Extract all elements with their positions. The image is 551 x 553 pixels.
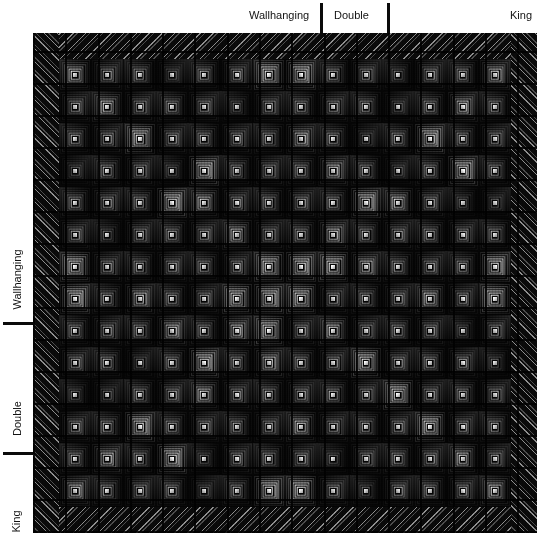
quilt-block[interactable] xyxy=(253,219,285,251)
quilt-block[interactable] xyxy=(446,283,478,315)
quilt-block[interactable] xyxy=(285,155,317,187)
quilt-block[interactable] xyxy=(253,347,285,379)
quilt-block[interactable] xyxy=(382,475,414,507)
quilt-block[interactable] xyxy=(124,251,156,283)
quilt-block[interactable] xyxy=(124,283,156,315)
quilt-block[interactable] xyxy=(446,251,478,283)
quilt-block[interactable] xyxy=(350,219,382,251)
quilt-block[interactable] xyxy=(253,123,285,155)
quilt-block[interactable] xyxy=(414,283,446,315)
quilt-block[interactable] xyxy=(188,155,220,187)
quilt-block[interactable] xyxy=(156,219,188,251)
quilt-block[interactable] xyxy=(253,443,285,475)
quilt-block[interactable] xyxy=(350,251,382,283)
quilt-block[interactable] xyxy=(446,155,478,187)
quilt-block[interactable] xyxy=(382,315,414,347)
quilt-block[interactable] xyxy=(156,443,188,475)
quilt-block[interactable] xyxy=(156,347,188,379)
quilt-block[interactable] xyxy=(91,475,123,507)
quilt-block[interactable] xyxy=(382,187,414,219)
quilt-block[interactable] xyxy=(317,219,349,251)
quilt-block[interactable] xyxy=(156,411,188,443)
quilt-block[interactable] xyxy=(253,59,285,91)
quilt-block[interactable] xyxy=(156,475,188,507)
quilt-block[interactable] xyxy=(382,123,414,155)
quilt-block[interactable] xyxy=(59,315,91,347)
quilt-block[interactable] xyxy=(317,283,349,315)
quilt-block[interactable] xyxy=(220,443,252,475)
quilt-block[interactable] xyxy=(91,251,123,283)
quilt-block[interactable] xyxy=(253,283,285,315)
quilt-block[interactable] xyxy=(350,443,382,475)
quilt-block[interactable] xyxy=(124,155,156,187)
quilt-block[interactable] xyxy=(317,411,349,443)
quilt-block[interactable] xyxy=(156,59,188,91)
quilt-block[interactable] xyxy=(188,443,220,475)
quilt-block[interactable] xyxy=(124,187,156,219)
quilt-block[interactable] xyxy=(156,123,188,155)
quilt-block[interactable] xyxy=(479,155,511,187)
quilt-block[interactable] xyxy=(220,155,252,187)
quilt-block[interactable] xyxy=(382,251,414,283)
quilt-block[interactable] xyxy=(317,315,349,347)
quilt-block[interactable] xyxy=(382,347,414,379)
quilt-block[interactable] xyxy=(91,123,123,155)
quilt-block[interactable] xyxy=(414,219,446,251)
quilt-block[interactable] xyxy=(382,59,414,91)
quilt-block[interactable] xyxy=(59,187,91,219)
quilt-block[interactable] xyxy=(220,379,252,411)
quilt-block[interactable] xyxy=(91,347,123,379)
quilt-block[interactable] xyxy=(156,91,188,123)
quilt-block[interactable] xyxy=(414,347,446,379)
quilt-canvas[interactable] xyxy=(33,33,537,533)
quilt-block[interactable] xyxy=(350,59,382,91)
quilt-block[interactable] xyxy=(414,59,446,91)
quilt-block[interactable] xyxy=(382,155,414,187)
quilt-block[interactable] xyxy=(285,219,317,251)
quilt-block[interactable] xyxy=(220,91,252,123)
quilt-block[interactable] xyxy=(59,443,91,475)
quilt-block[interactable] xyxy=(382,379,414,411)
quilt-block[interactable] xyxy=(59,475,91,507)
quilt-block[interactable] xyxy=(446,315,478,347)
quilt-block[interactable] xyxy=(220,59,252,91)
quilt-block[interactable] xyxy=(479,475,511,507)
quilt-block[interactable] xyxy=(124,475,156,507)
quilt-block[interactable] xyxy=(317,59,349,91)
quilt-block[interactable] xyxy=(414,123,446,155)
quilt-block[interactable] xyxy=(446,91,478,123)
quilt-block[interactable] xyxy=(479,443,511,475)
quilt-block[interactable] xyxy=(156,251,188,283)
quilt-block[interactable] xyxy=(156,283,188,315)
quilt-block[interactable] xyxy=(59,251,91,283)
quilt-block[interactable] xyxy=(91,283,123,315)
quilt-block[interactable] xyxy=(479,187,511,219)
quilt-block[interactable] xyxy=(91,411,123,443)
quilt-block[interactable] xyxy=(446,379,478,411)
quilt-block[interactable] xyxy=(317,91,349,123)
quilt-block[interactable] xyxy=(220,347,252,379)
quilt-block[interactable] xyxy=(188,347,220,379)
quilt-block[interactable] xyxy=(446,59,478,91)
quilt-block[interactable] xyxy=(220,251,252,283)
quilt-block[interactable] xyxy=(188,59,220,91)
quilt-block[interactable] xyxy=(253,379,285,411)
quilt-block[interactable] xyxy=(253,475,285,507)
quilt-block[interactable] xyxy=(479,123,511,155)
quilt-block[interactable] xyxy=(253,315,285,347)
quilt-block[interactable] xyxy=(285,123,317,155)
quilt-block[interactable] xyxy=(382,411,414,443)
quilt-block[interactable] xyxy=(124,123,156,155)
quilt-block[interactable] xyxy=(220,187,252,219)
quilt-block[interactable] xyxy=(253,91,285,123)
quilt-block[interactable] xyxy=(382,91,414,123)
quilt-block[interactable] xyxy=(414,379,446,411)
quilt-block[interactable] xyxy=(479,347,511,379)
quilt-block[interactable] xyxy=(59,91,91,123)
quilt-block[interactable] xyxy=(382,283,414,315)
quilt-block[interactable] xyxy=(91,155,123,187)
quilt-block[interactable] xyxy=(382,219,414,251)
quilt-block[interactable] xyxy=(285,443,317,475)
quilt-block[interactable] xyxy=(446,123,478,155)
quilt-block[interactable] xyxy=(414,411,446,443)
